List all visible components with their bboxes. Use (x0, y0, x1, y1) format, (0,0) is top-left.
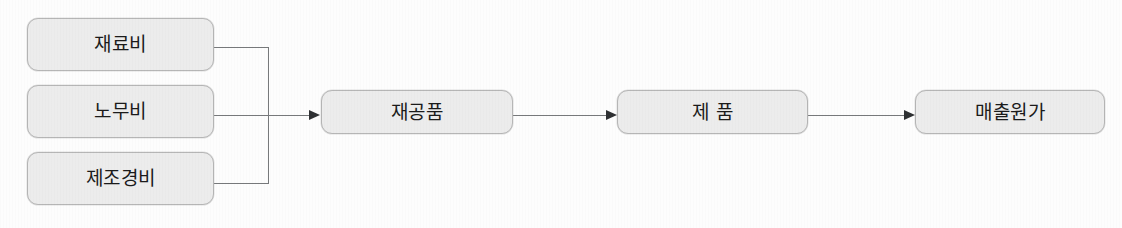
node-manufacturing-overhead[interactable]: 제조경비 (27, 152, 214, 205)
node-manufacturing-overhead-label: 제조경비 (86, 169, 156, 188)
arrowhead-into-finished-goods (606, 110, 617, 120)
connector-finished-goods-to-cogs (808, 115, 907, 116)
node-work-in-process[interactable]: 재공품 (321, 90, 513, 134)
connector-wip-to-finished-goods (513, 115, 609, 116)
node-cost-of-goods-sold[interactable]: 매출원가 (915, 90, 1105, 134)
diagram-canvas: 재료비 노무비 제조경비 재공품 제 품 매출원가 (0, 0, 1122, 228)
connector-material-to-bus (214, 47, 269, 48)
connector-overhead-to-bus (214, 183, 269, 184)
arrowhead-into-work-in-process (309, 110, 320, 120)
node-work-in-process-label: 재공품 (391, 102, 444, 121)
node-labor-cost[interactable]: 노무비 (27, 85, 214, 138)
node-material-cost[interactable]: 재료비 (27, 18, 214, 71)
node-finished-goods-label: 제 품 (692, 102, 734, 121)
node-labor-cost-label: 노무비 (94, 102, 147, 121)
arrowhead-into-cogs (904, 110, 915, 120)
node-cost-of-goods-sold-label: 매출원가 (975, 102, 1045, 121)
node-material-cost-label: 재료비 (94, 35, 147, 54)
connector-bus-to-work-in-process (214, 115, 309, 116)
node-finished-goods[interactable]: 제 품 (617, 90, 808, 134)
